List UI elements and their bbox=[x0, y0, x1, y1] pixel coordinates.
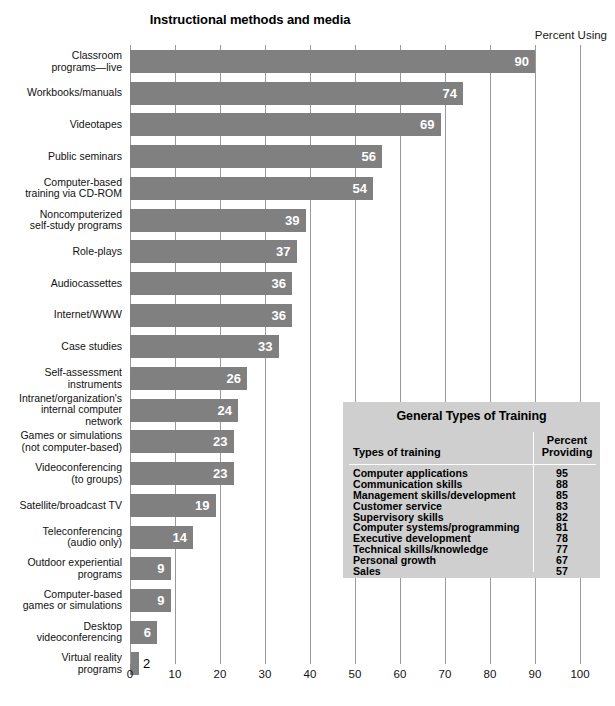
tick-label-70: 70 bbox=[425, 668, 465, 680]
category-label-line: Audiocassettes bbox=[0, 278, 122, 290]
inset-column-header-percent: Percent Providing bbox=[538, 434, 596, 458]
category-label: Self-assessmentinstruments bbox=[0, 367, 122, 390]
category-label-line: (not computer-based) bbox=[0, 442, 122, 454]
bar bbox=[130, 145, 382, 168]
chart-title: Instructional methods and media bbox=[0, 12, 500, 27]
tick-mark-40 bbox=[310, 652, 311, 664]
category-label-line: games or simulations bbox=[0, 600, 122, 612]
category-label: Internet/WWW bbox=[0, 309, 122, 321]
bar-value-label: 36 bbox=[268, 272, 286, 295]
bar-row: 90 bbox=[130, 50, 580, 73]
bar-row: 56 bbox=[130, 145, 580, 168]
category-label: Computer-basedgames or simulations bbox=[0, 589, 122, 612]
inset-table-row: Personal growth67 bbox=[343, 554, 600, 565]
inset-table-rows: Computer applications95Communication ski… bbox=[343, 467, 600, 576]
tick-mark-100 bbox=[580, 652, 581, 664]
category-label: Role-plays bbox=[0, 246, 122, 258]
inset-table-title: General Types of Training bbox=[343, 402, 600, 423]
inset-table-row: Management skills/development85 bbox=[343, 489, 600, 500]
inset-column-header-types: Types of training bbox=[353, 446, 441, 458]
bar-row: 74 bbox=[130, 82, 580, 105]
inset-row-name: Sales bbox=[353, 565, 381, 577]
category-label-line: Videotapes bbox=[0, 119, 122, 131]
category-label: Videotapes bbox=[0, 119, 122, 131]
category-label-line: Outdoor experiential bbox=[0, 557, 122, 569]
category-label: Public seminars bbox=[0, 151, 122, 163]
category-label-line: network bbox=[0, 416, 122, 428]
bar-row: 26 bbox=[130, 367, 580, 390]
tick-label-10: 10 bbox=[155, 668, 195, 680]
bar-value-label: 6 bbox=[133, 621, 151, 644]
bar-value-label: 19 bbox=[192, 494, 210, 517]
category-label: Teleconferencing(audio only) bbox=[0, 526, 122, 549]
tick-mark-70 bbox=[445, 652, 446, 664]
bar-row: 69 bbox=[130, 113, 580, 136]
inset-table-row: Supervisory skills82 bbox=[343, 511, 600, 522]
tick-label-30: 30 bbox=[245, 668, 285, 680]
category-label-line: Workbooks/manuals bbox=[0, 87, 122, 99]
inset-table-row: Executive development78 bbox=[343, 532, 600, 543]
inset-table-row: Computer applications95 bbox=[343, 467, 600, 478]
bar-value-label: 39 bbox=[282, 209, 300, 232]
category-label: Games or simulations(not computer-based) bbox=[0, 430, 122, 453]
chart-figure: Instructional methods and media Percent … bbox=[0, 0, 615, 706]
category-label: Computer-basedtraining via CD-ROM bbox=[0, 177, 122, 200]
tick-label-80: 80 bbox=[470, 668, 510, 680]
category-label-line: programs bbox=[0, 569, 122, 581]
bar bbox=[130, 113, 441, 136]
tick-mark-30 bbox=[265, 652, 266, 664]
tick-mark-0 bbox=[130, 652, 131, 664]
category-label-line: videoconferencing bbox=[0, 632, 122, 644]
bar-value-label: 9 bbox=[147, 589, 165, 612]
inset-table-row: Computer systems/programming81 bbox=[343, 521, 600, 532]
category-label-line: Internet/WWW bbox=[0, 309, 122, 321]
bar-value-label: 54 bbox=[349, 177, 367, 200]
category-label: Satellite/broadcast TV bbox=[0, 500, 122, 512]
bar bbox=[130, 209, 306, 232]
general-types-of-training-table: General Types of Training Types of train… bbox=[343, 402, 600, 578]
bar-row: 33 bbox=[130, 335, 580, 358]
category-label-line: instruments bbox=[0, 379, 122, 391]
inset-table-row: Technical skills/knowledge77 bbox=[343, 543, 600, 554]
category-label-line: (audio only) bbox=[0, 537, 122, 549]
inset-table-row: Sales57 bbox=[343, 565, 600, 576]
bar-value-label: 37 bbox=[273, 240, 291, 263]
bar bbox=[130, 177, 373, 200]
category-label-line: Classroom bbox=[0, 50, 122, 62]
tick-label-90: 90 bbox=[515, 668, 555, 680]
bar-row: 36 bbox=[130, 272, 580, 295]
category-label-line: self-study programs bbox=[0, 220, 122, 232]
tick-label-60: 60 bbox=[380, 668, 420, 680]
tick-mark-80 bbox=[490, 652, 491, 664]
inset-column-header-percent-line1: Percent bbox=[547, 434, 587, 446]
bar-row: 6 bbox=[130, 621, 580, 644]
bar-row: 37 bbox=[130, 240, 580, 263]
axis-caption-percent-using: Percent Using bbox=[535, 29, 607, 41]
tick-label-20: 20 bbox=[200, 668, 240, 680]
category-label-line: Public seminars bbox=[0, 151, 122, 163]
bar-value-label: 36 bbox=[268, 304, 286, 327]
bar-value-label: 24 bbox=[214, 399, 232, 422]
category-label: Outdoor experientialprograms bbox=[0, 557, 122, 580]
bar-value-label: 26 bbox=[223, 367, 241, 390]
category-label: Workbooks/manuals bbox=[0, 87, 122, 99]
bar-row: 9 bbox=[130, 589, 580, 612]
bar-value-label: 56 bbox=[358, 145, 376, 168]
category-label: Intranet/organization'sinternal computer… bbox=[0, 393, 122, 428]
category-label-line: (to groups) bbox=[0, 474, 122, 486]
category-label: Videoconferencing(to groups) bbox=[0, 462, 122, 485]
tick-mark-10 bbox=[175, 652, 176, 664]
bar-value-label: 23 bbox=[210, 462, 228, 485]
category-label-line: programs bbox=[0, 664, 122, 676]
category-label-line: Videoconferencing bbox=[0, 462, 122, 474]
bar-value-label: 69 bbox=[417, 113, 435, 136]
bar-value-label: 90 bbox=[511, 50, 529, 73]
category-label: Classroomprograms—live bbox=[0, 50, 122, 73]
bar-row: 36 bbox=[130, 304, 580, 327]
inset-row-value: 57 bbox=[533, 565, 591, 577]
tick-mark-60 bbox=[400, 652, 401, 664]
bar-value-label: 9 bbox=[147, 557, 165, 580]
tick-mark-90 bbox=[535, 652, 536, 664]
inset-header-divider bbox=[349, 464, 596, 465]
category-label-line: Self-assessment bbox=[0, 367, 122, 379]
